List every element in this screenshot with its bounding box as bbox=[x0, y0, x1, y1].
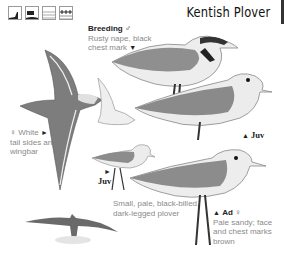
flight-from-below-illustration bbox=[0, 0, 284, 255]
